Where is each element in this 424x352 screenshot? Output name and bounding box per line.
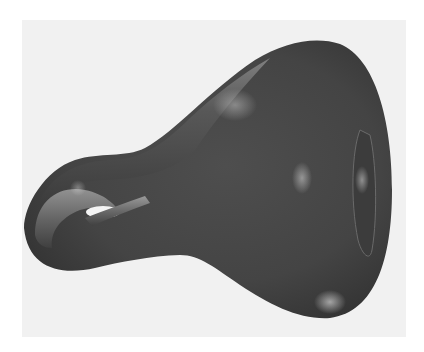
highlight-center	[292, 162, 312, 194]
highlight-bottom	[314, 290, 346, 314]
highlight-handle	[70, 180, 86, 196]
klein-bottle-render	[0, 0, 424, 352]
highlight-neck	[213, 89, 257, 121]
highlight-rim	[355, 166, 369, 194]
